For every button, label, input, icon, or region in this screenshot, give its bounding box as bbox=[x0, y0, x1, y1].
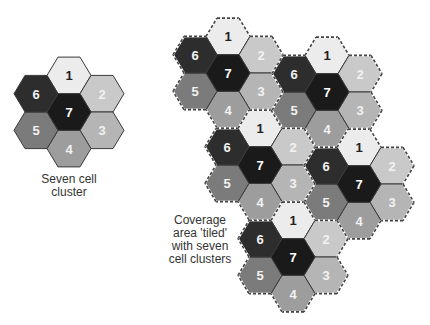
cell-number-label: 7 bbox=[323, 85, 330, 100]
caption-line: cell clusters bbox=[155, 253, 245, 266]
cell-number-label: 5 bbox=[256, 268, 263, 283]
cell-number-label: 5 bbox=[290, 103, 297, 118]
cell-number-label: 6 bbox=[322, 159, 329, 174]
cell-number-label: 7 bbox=[65, 105, 72, 120]
cell-number-label: 3 bbox=[257, 84, 264, 99]
cell-number-label: 2 bbox=[356, 67, 363, 82]
cell-number-label: 5 bbox=[32, 123, 39, 138]
cell-number-label: 1 bbox=[256, 121, 263, 136]
cell-number-label: 7 bbox=[256, 158, 263, 173]
single-cluster-caption: Seven cell cluster bbox=[29, 173, 109, 199]
cell-number-label: 7 bbox=[355, 177, 362, 192]
cell-number-label: 5 bbox=[191, 84, 198, 99]
cell-number-label: 5 bbox=[223, 176, 230, 191]
cell-number-label: 1 bbox=[323, 48, 330, 63]
cell-number-label: 4 bbox=[256, 195, 264, 210]
cell-number-label: 4 bbox=[289, 287, 297, 302]
cell-number-label: 1 bbox=[65, 68, 72, 83]
cell-number-label: 5 bbox=[322, 195, 329, 210]
cell-number-label: 4 bbox=[65, 142, 73, 157]
cell-number-label: 2 bbox=[289, 140, 296, 155]
cell-number-label: 6 bbox=[191, 48, 198, 63]
cell-number-label: 3 bbox=[98, 123, 105, 138]
cell-number-label: 4 bbox=[323, 122, 331, 137]
cell-number-label: 3 bbox=[289, 176, 296, 191]
cell-number-label: 1 bbox=[289, 213, 296, 228]
cell-number-label: 6 bbox=[290, 67, 297, 82]
cell-number-label: 7 bbox=[289, 250, 296, 265]
single-seven-cell-cluster: 1234567 bbox=[14, 57, 124, 167]
cell-number-label: 2 bbox=[257, 48, 264, 63]
cell-cluster-diagram: 1234567 12345671234567123456712345671234… bbox=[0, 0, 430, 325]
cell-number-label: 7 bbox=[224, 66, 231, 81]
tiled-coverage-area: 12345671234567123456712345671234567 bbox=[173, 18, 414, 312]
seven-cell-cluster: 1234567 bbox=[14, 57, 124, 167]
cell-number-label: 2 bbox=[98, 87, 105, 102]
cell-number-label: 2 bbox=[388, 159, 395, 174]
cell-number-label: 6 bbox=[256, 232, 263, 247]
cell-number-label: 3 bbox=[356, 103, 363, 118]
cell-number-label: 3 bbox=[322, 268, 329, 283]
cell-number-label: 4 bbox=[224, 103, 232, 118]
cell-number-label: 3 bbox=[388, 195, 395, 210]
cell-number-label: 2 bbox=[322, 232, 329, 247]
cell-number-label: 1 bbox=[355, 140, 362, 155]
cell-number-label: 6 bbox=[32, 87, 39, 102]
cell-number-label: 6 bbox=[223, 140, 230, 155]
tiled-area-caption: Coverage area 'tiled' with seven cell cl… bbox=[155, 214, 245, 266]
caption-line: cluster bbox=[29, 186, 109, 199]
cell-number-label: 1 bbox=[224, 29, 231, 44]
cell-number-label: 4 bbox=[355, 214, 363, 229]
